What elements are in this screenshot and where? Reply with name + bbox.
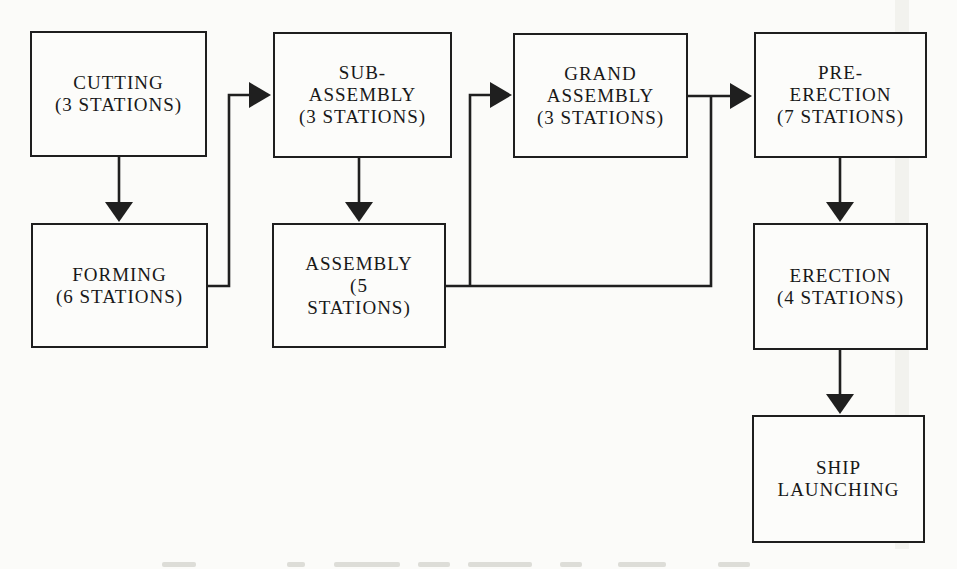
box-label-line: ASSEMBLY <box>547 85 654 107</box>
box-label-line: PRE- <box>818 62 863 84</box>
box-label-line: (4 STATIONS) <box>777 287 904 309</box>
box-label-line: (3 STATIONS) <box>55 94 182 116</box>
arrowhead-assembly-to-grand-assembly <box>490 82 512 108</box>
edge-forming-to-sub-assembly <box>208 95 251 286</box>
edge-assembly-to-grand-assembly <box>470 95 492 287</box>
box-label-line: FORMING <box>72 264 167 286</box>
process-box-erection: ERECTION (4 STATIONS) <box>753 223 928 350</box>
box-label-line: ASSEMBLY <box>305 253 412 275</box>
box-label-line: (5 <box>350 275 368 297</box>
arrowhead-erection-to-ship-launching <box>826 394 854 414</box>
box-label-line: ERECTION <box>790 265 892 287</box>
process-box-sub-assembly: SUB- ASSEMBLY (3 STATIONS) <box>273 32 452 158</box>
process-box-ship-launching: SHIP LAUNCHING <box>752 415 925 543</box>
arrowhead-grand-assembly-to-pre-erection <box>730 83 752 109</box>
arrowhead-forming-to-sub-assembly <box>249 82 271 108</box>
process-box-pre-erection: PRE- ERECTION (7 STATIONS) <box>754 32 927 158</box>
box-label-line: ASSEMBLY <box>309 84 416 106</box>
box-label-line: SHIP <box>816 457 861 479</box>
process-box-forming: FORMING (6 STATIONS) <box>31 223 208 348</box>
box-label-line: (3 STATIONS) <box>299 106 426 128</box>
box-label-line: (7 STATIONS) <box>777 106 904 128</box>
box-label-line: LAUNCHING <box>778 479 900 501</box>
arrowhead-pre-erection-to-erection <box>826 202 854 222</box>
box-label-line: STATIONS) <box>307 297 411 319</box>
box-label-line: (3 STATIONS) <box>537 107 664 129</box>
box-label-line: ERECTION <box>790 84 892 106</box>
box-label-line: GRAND <box>564 63 637 85</box>
process-box-grand-assembly: GRAND ASSEMBLY (3 STATIONS) <box>513 33 688 158</box>
process-box-assembly: ASSEMBLY (5 STATIONS) <box>272 223 446 348</box>
process-box-cutting: CUTTING (3 STATIONS) <box>30 31 207 157</box>
box-label-line: CUTTING <box>73 72 163 94</box>
arrowhead-cutting-to-forming <box>105 202 133 222</box>
flow-diagram-page: CUTTING (3 STATIONS) SUB- ASSEMBLY (3 ST… <box>0 0 957 569</box>
box-label-line: SUB- <box>339 62 386 84</box>
box-label-line: (6 STATIONS) <box>56 286 183 308</box>
arrowhead-sub-assembly-to-assembly <box>345 202 373 222</box>
